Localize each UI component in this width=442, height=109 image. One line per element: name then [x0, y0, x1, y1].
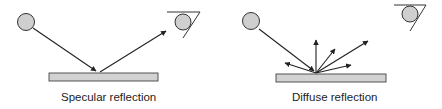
reflective-surface	[49, 73, 158, 81]
specular-caption: Specular reflection	[61, 91, 156, 103]
eye-icon	[394, 5, 426, 31]
incident-ray	[259, 29, 314, 71]
diffuse-caption: Diffuse reflection	[292, 91, 377, 103]
diffuse-panel	[243, 5, 427, 82]
specular-panel	[18, 12, 201, 81]
incident-ray	[33, 28, 96, 71]
light-source-icon	[243, 13, 260, 30]
light-source-icon	[18, 14, 35, 31]
reflected-ray	[100, 31, 166, 72]
scattered-rays	[285, 40, 368, 73]
eye-icon	[167, 12, 200, 38]
reflective-surface	[276, 74, 386, 82]
